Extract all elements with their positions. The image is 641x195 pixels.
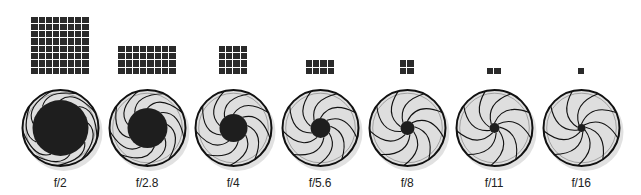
light-cell xyxy=(306,68,312,74)
light-cell xyxy=(162,46,168,52)
light-cell xyxy=(118,60,124,66)
light-cell xyxy=(487,68,493,74)
light-cell xyxy=(140,68,146,74)
light-cell xyxy=(53,38,59,44)
stop-f11: f/11 xyxy=(451,0,538,195)
fstop-label: f/2.8 xyxy=(104,176,191,190)
light-cell xyxy=(31,60,37,66)
light-cell xyxy=(118,53,124,59)
light-cell xyxy=(241,60,247,66)
light-cell xyxy=(75,31,81,37)
light-cell xyxy=(39,46,45,52)
aperture-iris-icon xyxy=(451,84,538,176)
light-cell xyxy=(75,38,81,44)
light-cell xyxy=(162,68,168,74)
light-cell xyxy=(169,68,175,74)
light-cell xyxy=(140,46,146,52)
light-cell xyxy=(494,68,500,74)
light-cell xyxy=(75,53,81,59)
light-cell xyxy=(75,68,81,74)
light-cell xyxy=(219,68,225,74)
light-cell xyxy=(53,17,59,23)
light-cell xyxy=(133,60,139,66)
light-cell xyxy=(328,60,334,66)
light-cell xyxy=(169,46,175,52)
light-cell xyxy=(60,17,66,23)
light-cell xyxy=(147,53,153,59)
light-cell xyxy=(53,31,59,37)
light-cell xyxy=(400,60,406,66)
light-cell xyxy=(53,46,59,52)
light-cell xyxy=(68,38,74,44)
light-cell xyxy=(82,17,88,23)
light-cell xyxy=(407,68,413,74)
light-grid xyxy=(306,60,334,74)
light-grid xyxy=(400,60,414,74)
light-cell xyxy=(60,60,66,66)
fstop-label: f/2 xyxy=(17,176,104,190)
light-cell xyxy=(39,38,45,44)
light-cell xyxy=(233,53,239,59)
light-cell xyxy=(31,68,37,74)
light-cell xyxy=(39,24,45,30)
light-cell xyxy=(140,53,146,59)
light-cell xyxy=(39,17,45,23)
light-cell xyxy=(226,60,232,66)
light-cell xyxy=(155,53,161,59)
light-cell xyxy=(46,46,52,52)
light-cell xyxy=(147,46,153,52)
light-cell xyxy=(46,38,52,44)
light-cell xyxy=(31,31,37,37)
light-grid xyxy=(578,68,584,74)
light-cell xyxy=(126,46,132,52)
light-cell xyxy=(155,60,161,66)
light-cell xyxy=(46,68,52,74)
light-cell xyxy=(46,60,52,66)
light-cell xyxy=(82,60,88,66)
light-cell xyxy=(46,24,52,30)
light-grid xyxy=(487,68,501,74)
light-cell xyxy=(53,68,59,74)
light-cell xyxy=(320,60,326,66)
aperture-iris-icon xyxy=(364,84,451,176)
light-cell xyxy=(233,68,239,74)
light-cell xyxy=(82,38,88,44)
light-grid xyxy=(31,17,88,74)
light-cell xyxy=(162,53,168,59)
fstop-label: f/8 xyxy=(364,176,451,190)
light-cell xyxy=(31,53,37,59)
stop-f5-6: f/5.6 xyxy=(277,0,364,195)
light-cell xyxy=(39,31,45,37)
light-cell xyxy=(75,17,81,23)
light-cell xyxy=(313,68,319,74)
light-cell xyxy=(147,60,153,66)
light-cell xyxy=(82,68,88,74)
light-grid xyxy=(118,46,175,74)
fstop-label: f/4 xyxy=(190,176,277,190)
stop-f2: f/2 xyxy=(17,0,104,195)
light-cell xyxy=(60,46,66,52)
light-cell xyxy=(133,53,139,59)
light-cell xyxy=(46,53,52,59)
light-cell xyxy=(241,53,247,59)
light-cell xyxy=(68,17,74,23)
light-cell xyxy=(39,53,45,59)
light-cell xyxy=(46,17,52,23)
stop-f16: f/16 xyxy=(538,0,625,195)
light-cell xyxy=(219,46,225,52)
light-cell xyxy=(82,31,88,37)
light-cell xyxy=(31,24,37,30)
light-cell xyxy=(169,53,175,59)
light-cell xyxy=(140,60,146,66)
light-cell xyxy=(60,31,66,37)
light-cell xyxy=(60,38,66,44)
light-cell xyxy=(118,46,124,52)
light-cell xyxy=(578,68,584,74)
light-cell xyxy=(407,60,413,66)
light-cell xyxy=(169,60,175,66)
light-cell xyxy=(219,60,225,66)
light-cell xyxy=(226,46,232,52)
light-cell xyxy=(75,46,81,52)
light-grid xyxy=(219,46,247,74)
light-cell xyxy=(133,46,139,52)
